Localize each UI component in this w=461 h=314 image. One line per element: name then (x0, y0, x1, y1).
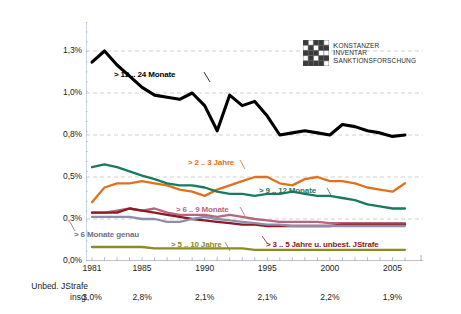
footer-value: 3,0% (82, 292, 101, 302)
x-axis-tick-label: 1985 (133, 263, 152, 273)
kis-logo-mark-icon (303, 40, 329, 66)
logo-cell (313, 40, 318, 45)
kis-logo: KONSTANZER INVENTAR SANKTIONSFORSCHUNG (303, 40, 416, 66)
x-axis-labels: 198119851990199520002005 (86, 263, 426, 277)
footer-title-line2: insg. (14, 292, 88, 303)
annotation-5-10-jahre: > 5 .. 10 Jahre (171, 240, 221, 249)
annotation-6-monate-genau: > 6 Monate genau (74, 230, 139, 239)
footer-value: 2,1% (195, 292, 214, 302)
logo-cell (319, 56, 324, 61)
logo-cell (303, 40, 308, 45)
logo-cell (308, 61, 313, 66)
footer-title: Unbed. JStrafe insg. (14, 281, 88, 302)
logo-cell (308, 56, 313, 61)
annotation-9-12-monate: > 9 .. 12 Monate (259, 186, 316, 195)
logo-line-2: INVENTAR (333, 49, 416, 57)
logo-cell (303, 50, 308, 55)
logo-cell (313, 61, 318, 66)
y-axis-tick-label: 0,5% (63, 171, 82, 181)
series-line (92, 164, 405, 208)
y-axis-tick-label: 0,8% (63, 129, 82, 139)
x-axis-tick-label: 1981 (83, 263, 102, 273)
chart-page: 1,3%1,0%0,8%0,5%0,3%0,0% 198119851990199… (0, 0, 461, 314)
logo-cell (313, 50, 318, 55)
footer-value: 2,8% (132, 292, 151, 302)
y-axis-tick-label: 0,3% (63, 213, 82, 223)
y-axis-labels: 1,3%1,0%0,8%0,5%0,3%0,0% (34, 22, 82, 261)
logo-cell (324, 56, 329, 61)
annotation-3-5-jahre: > 3 .. 5 Jahre u. unbest. JStrafe (266, 240, 379, 249)
logo-cell (319, 61, 324, 66)
kis-logo-text: KONSTANZER INVENTAR SANKTIONSFORSCHUNG (333, 42, 416, 65)
annotation-2-3-jahre: > 2 .. 3 Jahre (188, 158, 234, 167)
logo-cell (324, 45, 329, 50)
x-axis-tick-label: 1995 (258, 263, 277, 273)
x-axis-tick-label: 1990 (195, 263, 214, 273)
logo-cell (308, 45, 313, 50)
x-axis-tick-label: 2000 (320, 263, 339, 273)
annotation-12-24-monate: > 12 .. 24 Monate (114, 70, 175, 79)
y-axis-tick-label: 1,3% (63, 45, 82, 55)
footer-title-line1: Unbed. JStrafe (14, 281, 88, 292)
x-axis-tick-label: 2005 (383, 263, 402, 273)
logo-cell (308, 50, 313, 55)
y-axis-tick-label: 1,0% (63, 87, 82, 97)
logo-cell (303, 61, 308, 66)
footer-value: 2,2% (320, 292, 339, 302)
footer-value: 2,1% (258, 292, 277, 302)
logo-cell (319, 40, 324, 45)
logo-cell (319, 45, 324, 50)
annotation-6-9-monate: > 6 .. 9 Monate (176, 205, 229, 214)
footer-row: Unbed. JStrafe insg. 3,0%2,8%2,1%2,1%2,2… (0, 281, 461, 311)
series-line (92, 177, 405, 202)
footer-value: 1,9% (383, 292, 402, 302)
y-axis-tick-label: 0,0% (63, 255, 82, 265)
logo-line-3: SANKTIONSFORSCHUNG (333, 57, 416, 65)
